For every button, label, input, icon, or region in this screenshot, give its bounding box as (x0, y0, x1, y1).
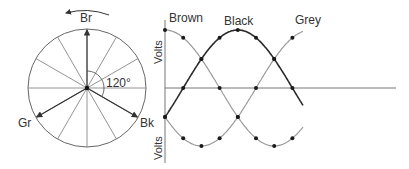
wave-dot-grey (236, 115, 240, 119)
wave-black (165, 30, 303, 117)
y-axis-label-bottom: Volts (152, 136, 164, 160)
wave-dot-brown (181, 36, 185, 40)
wave-dot-brown (163, 28, 167, 32)
phasor-arrow-black (87, 88, 137, 117)
diagram-graphics (0, 0, 409, 169)
phasor-center (85, 86, 89, 90)
wave-dot-grey (254, 86, 258, 90)
wave-dot-black (199, 57, 203, 61)
angle-label: 120° (106, 77, 131, 89)
wave-grey (165, 31, 303, 146)
phasor-label-grey: Gr (18, 117, 31, 129)
y-axis-label-top: Volts (152, 40, 164, 64)
phasor-label-brown: Br (80, 12, 92, 24)
phasor-label-black: Bk (140, 117, 154, 129)
wave-dot-grey (181, 136, 185, 140)
wave-dot-black (218, 36, 222, 40)
wave-dot-black (272, 57, 276, 61)
wave-dot-black (290, 86, 294, 90)
wave-label-grey: Grey (295, 14, 321, 26)
three-phase-diagram: Br Gr Bk 120° Brown Black Grey Volts Vol… (0, 0, 409, 169)
wave-dot-grey (199, 144, 203, 148)
phasor-arrow-grey (37, 88, 87, 117)
wave-dot-brown (272, 144, 276, 148)
wave-dot-brown (254, 136, 258, 140)
wave-dot-grey (290, 36, 294, 40)
wave-dot-brown (218, 86, 222, 90)
wave-dot-black (236, 28, 240, 32)
wave-dot-brown (290, 136, 294, 140)
wave-label-brown: Brown (169, 12, 203, 24)
wave-dot-black (254, 36, 258, 40)
wave-dot-black (163, 115, 167, 119)
wave-dot-black (181, 86, 185, 90)
wave-label-black: Black (224, 15, 253, 27)
wave-dot-grey (218, 136, 222, 140)
